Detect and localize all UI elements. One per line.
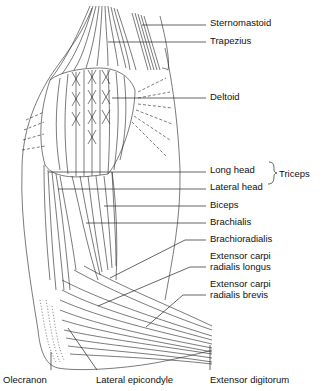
- label-brachioradialis: Brachioradialis: [210, 233, 272, 244]
- biceps-brachialis-muscles: [72, 172, 117, 280]
- label-trapezius: Trapezius: [210, 35, 251, 46]
- label-triceps: Triceps: [279, 168, 310, 179]
- deltoid-muscle: [41, 68, 135, 177]
- label-brachialis: Brachialis: [210, 216, 251, 227]
- triceps-brace: [268, 162, 277, 184]
- triceps-muscle: [44, 165, 76, 290]
- label-sternomastoid: Sternomastoid: [210, 17, 271, 28]
- label-lateral-epicondyle: Lateral epicondyle: [96, 374, 173, 385]
- label-long-head: Long head: [210, 164, 255, 175]
- leader-lines: [48, 25, 277, 370]
- sternomastoid-muscle: [132, 13, 160, 70]
- label-deltoid: Deltoid: [210, 91, 240, 102]
- label-biceps: Biceps: [210, 199, 239, 210]
- trapezius-muscle: [50, 6, 136, 80]
- label-extensor-carpi-radialis-longus: Extensor carpi radialis longus: [210, 250, 271, 272]
- arm-muscle-illustration: [0, 0, 325, 391]
- label-extensor-carpi-radialis-brevis: Extensor carpi radialis brevis: [210, 278, 271, 300]
- label-olecranon: Olecranon: [3, 374, 47, 385]
- label-lateral-head: Lateral head: [210, 181, 263, 192]
- label-extensor-digitorum: Extensor digitorum: [210, 374, 289, 385]
- olecranon-bone: [40, 300, 64, 362]
- pectoral-fibres: [22, 78, 172, 156]
